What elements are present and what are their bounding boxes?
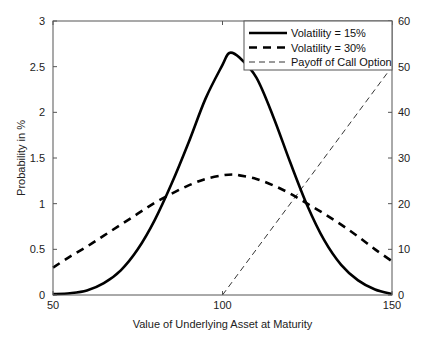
series-line-2 <box>53 174 392 267</box>
y-tick-label: 0 <box>39 289 45 301</box>
x-tick-label: 100 <box>213 299 231 311</box>
y-tick-label: 0.5 <box>30 243 45 255</box>
legend-label: Payoff of Call Option <box>291 56 392 68</box>
y2-tick-label: 10 <box>398 243 410 255</box>
y-tick-label: 3 <box>39 15 45 27</box>
series-line-3 <box>223 67 393 295</box>
y2-tick-label: 20 <box>398 198 410 210</box>
y2-tick-label: 60 <box>398 15 410 27</box>
legend-label: Volatility = 15% <box>291 27 366 39</box>
chart: 00.511.522.53010203040506050100150 Value… <box>0 0 423 341</box>
y2-tick-label: 40 <box>398 106 410 118</box>
x-tick-label: 150 <box>383 299 401 311</box>
y-tick-label: 1.5 <box>30 152 45 164</box>
x-axis-title: Value of Underlying Asset at Maturity <box>133 318 313 330</box>
series-line-1 <box>53 53 392 295</box>
y2-tick-label: 50 <box>398 61 410 73</box>
y2-tick-label: 30 <box>398 152 410 164</box>
y-tick-label: 2 <box>39 106 45 118</box>
series-layer <box>53 53 392 295</box>
y-axis-title: Probability in % <box>15 120 27 196</box>
legend: Volatility = 15%Volatility = 30%Payoff o… <box>244 21 392 70</box>
legend-label: Volatility = 30% <box>291 42 366 54</box>
x-tick-label: 50 <box>47 299 59 311</box>
y-tick-label: 2.5 <box>30 61 45 73</box>
y-tick-label: 1 <box>39 198 45 210</box>
